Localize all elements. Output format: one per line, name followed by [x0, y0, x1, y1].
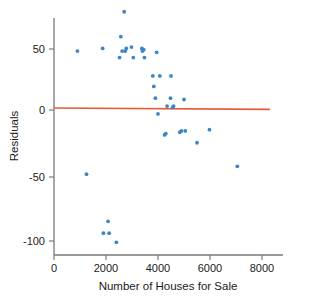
- y-tick-label-neg50: -50: [29, 171, 45, 183]
- zero-reference-line: [54, 108, 270, 109]
- data-points-group: [76, 10, 240, 244]
- data-point: [182, 98, 186, 102]
- data-point: [124, 47, 128, 51]
- data-point: [102, 231, 106, 235]
- x-tick-label-4000: 4000: [146, 262, 170, 274]
- x-tick-label-8000: 8000: [250, 262, 274, 274]
- data-point: [172, 104, 176, 108]
- data-point: [85, 172, 89, 176]
- x-tick-label-0: 0: [51, 262, 57, 274]
- data-point: [118, 56, 122, 60]
- data-point: [151, 74, 155, 78]
- data-point: [183, 129, 187, 133]
- data-point: [130, 45, 134, 49]
- x-axis-title: Number of Houses for Sale: [99, 280, 238, 292]
- data-point: [115, 240, 119, 244]
- data-point: [235, 164, 239, 168]
- data-point: [142, 48, 146, 52]
- data-point: [152, 85, 156, 89]
- data-point: [169, 74, 173, 78]
- x-tick-label-6000: 6000: [198, 262, 222, 274]
- data-point: [119, 35, 123, 39]
- data-point: [122, 10, 126, 14]
- y-axis-ticks: [49, 49, 54, 241]
- y-axis-title: Residuals: [8, 111, 20, 162]
- data-point: [107, 231, 111, 235]
- residual-plot-canvas: 50 0 -50 -100 0 2000 4000 6000 8000 Numb…: [0, 0, 336, 296]
- x-axis-tick-labels: 0 2000 4000 6000 8000: [51, 262, 274, 274]
- y-tick-label-0: 0: [39, 104, 45, 116]
- data-point: [131, 56, 135, 60]
- y-tick-label-neg100: -100: [23, 235, 45, 247]
- x-tick-label-2000: 2000: [94, 262, 118, 274]
- data-point: [169, 96, 173, 100]
- y-tick-label-50: 50: [33, 43, 45, 55]
- data-point: [106, 219, 110, 223]
- data-point: [208, 128, 212, 132]
- data-point: [158, 74, 162, 78]
- data-point: [156, 112, 160, 116]
- data-point: [101, 47, 105, 51]
- x-axis-ticks: [54, 255, 262, 260]
- y-axis-tick-labels: 50 0 -50 -100: [23, 43, 45, 247]
- data-point: [143, 56, 147, 60]
- data-point: [195, 141, 199, 145]
- data-point: [180, 129, 184, 133]
- data-point: [164, 132, 168, 136]
- data-point: [155, 50, 159, 54]
- scatter-plot-figure: 50 0 -50 -100 0 2000 4000 6000 8000 Numb…: [0, 0, 336, 296]
- data-point: [76, 49, 80, 53]
- data-point: [165, 104, 169, 108]
- data-point: [154, 96, 158, 100]
